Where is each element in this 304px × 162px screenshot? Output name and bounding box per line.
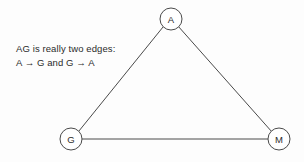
annotation-line-1: AG is really two edges: (16, 42, 115, 56)
node-group: A G M (60, 8, 290, 150)
annotation-line-2: A → G and G → A (16, 56, 115, 70)
edge-annotation: AG is really two edges: A → G and G → A (16, 42, 115, 70)
node-a[interactable]: A (160, 8, 182, 30)
node-m-label: M (275, 134, 283, 145)
node-g-label: G (67, 134, 74, 145)
graph-figure: A G M (0, 0, 304, 162)
node-g[interactable]: G (60, 128, 82, 150)
edge-a-m (179, 27, 272, 131)
diagram-canvas: A G M AG is really two edges: A → G and … (0, 0, 304, 162)
node-m[interactable]: M (268, 128, 290, 150)
node-a-label: A (168, 14, 175, 25)
